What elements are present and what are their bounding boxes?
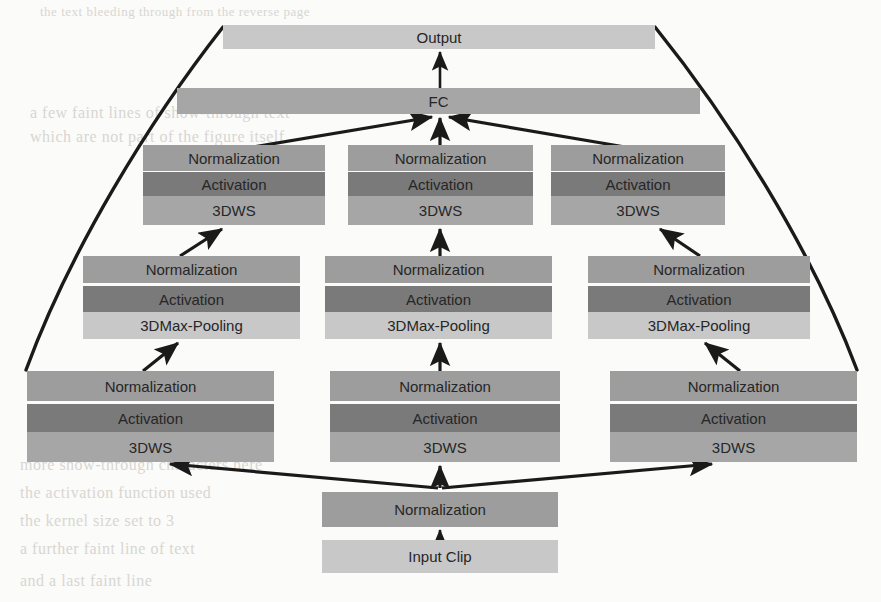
block-label: 3DWS bbox=[712, 440, 755, 455]
bleedthrough-line: the activation function used bbox=[20, 484, 211, 502]
block-t2-norm: Normalization bbox=[348, 145, 533, 171]
block-b1-norm: Normalization bbox=[27, 371, 274, 401]
block-m2-pool: 3DMax-Pooling bbox=[325, 312, 552, 339]
block-label: Input Clip bbox=[408, 549, 471, 564]
block-label: 3DWS bbox=[212, 203, 255, 218]
block-m2-act: Activation bbox=[325, 286, 552, 312]
block-label: 3DMax-Pooling bbox=[387, 318, 490, 333]
block-t1-norm: Normalization bbox=[143, 145, 325, 171]
block-b1-act: Activation bbox=[27, 404, 274, 432]
block-label: Activation bbox=[408, 177, 473, 192]
bleedthrough-line: the text bleeding through from the rever… bbox=[40, 4, 310, 20]
block-label: Activation bbox=[118, 411, 183, 426]
block-label: Activation bbox=[666, 292, 731, 307]
block-b1-dws: 3DWS bbox=[27, 432, 274, 462]
block-label: Normalization bbox=[393, 262, 485, 277]
bleedthrough-line: and a last faint line bbox=[20, 572, 152, 590]
block-label: Normalization bbox=[105, 379, 197, 394]
block-label: Normalization bbox=[188, 151, 280, 166]
arrow-bot3-to-mid3 bbox=[705, 343, 740, 371]
bleedthrough-line: the kernel size set to 3 bbox=[20, 512, 175, 530]
arrow-mid1-to-top1 bbox=[180, 229, 222, 256]
bleedthrough-line: which are not part of the figure itself bbox=[30, 128, 285, 146]
block-label: 3DWS bbox=[423, 440, 466, 455]
block-t3-norm: Normalization bbox=[551, 145, 725, 171]
block-label: Normalization bbox=[653, 262, 745, 277]
figure-canvas: the text bleeding through from the rever… bbox=[0, 0, 881, 602]
block-label: 3DWS bbox=[616, 203, 659, 218]
block-label: 3DMax-Pooling bbox=[140, 318, 243, 333]
block-label: Normalization bbox=[146, 262, 238, 277]
block-b2-dws: 3DWS bbox=[330, 432, 560, 462]
block-label: Normalization bbox=[592, 151, 684, 166]
block-label: Activation bbox=[201, 177, 266, 192]
block-label: Output bbox=[416, 30, 461, 45]
block-label: Activation bbox=[406, 292, 471, 307]
block-t3-dws: 3DWS bbox=[551, 196, 725, 225]
block-in-norm: Normalization bbox=[322, 492, 558, 527]
arrow-branch1-to-fc bbox=[247, 117, 432, 148]
block-label: Normalization bbox=[399, 379, 491, 394]
block-label: Normalization bbox=[394, 502, 486, 517]
block-m3-pool: 3DMax-Pooling bbox=[588, 312, 810, 339]
block-m1-norm: Normalization bbox=[83, 256, 300, 283]
block-m3-act: Activation bbox=[588, 286, 810, 312]
block-m3-norm: Normalization bbox=[588, 256, 810, 283]
arrow-branch3-to-fc bbox=[449, 117, 631, 148]
block-t3-act: Activation bbox=[551, 172, 725, 196]
arrow-innorm-to-bot3 bbox=[442, 464, 712, 488]
arrow-mid3-to-top3 bbox=[660, 229, 700, 256]
block-label: Activation bbox=[412, 411, 477, 426]
block-t1-dws: 3DWS bbox=[143, 196, 325, 225]
block-m1-pool: 3DMax-Pooling bbox=[83, 312, 300, 339]
block-m2-norm: Normalization bbox=[325, 256, 552, 283]
block-label: 3DWS bbox=[419, 203, 462, 218]
block-input-clip: Input Clip bbox=[322, 540, 558, 573]
block-t2-act: Activation bbox=[348, 172, 533, 196]
arrow-bot1-to-mid1 bbox=[143, 343, 178, 371]
bleedthrough-line: a further faint line of text bbox=[20, 540, 195, 558]
block-m1-act: Activation bbox=[83, 286, 300, 312]
block-fc: FC bbox=[177, 88, 700, 114]
block-label: 3DMax-Pooling bbox=[648, 318, 751, 333]
block-t1-act: Activation bbox=[143, 172, 325, 196]
block-b2-act: Activation bbox=[330, 404, 560, 432]
block-label: Activation bbox=[605, 177, 670, 192]
block-b2-norm: Normalization bbox=[330, 371, 560, 401]
block-label: Activation bbox=[159, 292, 224, 307]
block-t2-dws: 3DWS bbox=[348, 196, 533, 225]
block-label: 3DWS bbox=[129, 440, 172, 455]
block-label: FC bbox=[429, 94, 449, 109]
block-b3-norm: Normalization bbox=[610, 371, 857, 401]
block-label: Activation bbox=[701, 411, 766, 426]
block-label: Normalization bbox=[688, 379, 780, 394]
block-output: Output bbox=[223, 25, 655, 49]
block-b3-dws: 3DWS bbox=[610, 432, 857, 462]
block-label: Normalization bbox=[395, 151, 487, 166]
arrow-innorm-to-bot1 bbox=[170, 464, 438, 488]
block-b3-act: Activation bbox=[610, 404, 857, 432]
